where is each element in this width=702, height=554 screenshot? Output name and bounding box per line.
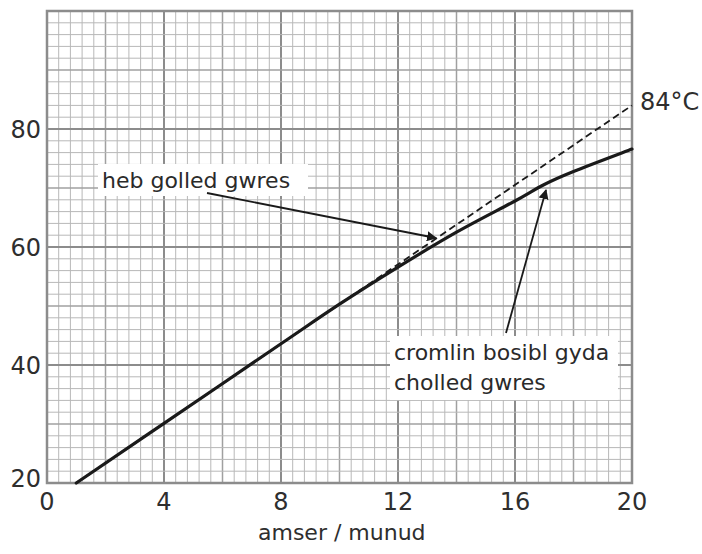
y-tick-label: 60 [10,234,41,262]
x-tick-label: 4 [156,488,171,516]
x-axis-label: amser / munud [258,520,426,545]
heat-loss-curve [76,149,632,483]
annotation-heat-loss-line2: cholled gwres [394,370,546,395]
x-tick-label: 20 [617,488,648,516]
y-tick-label: 40 [10,352,41,380]
x-tick-label: 0 [39,488,54,516]
end-temperature-label: 84°C [640,88,699,116]
annotation-heat-loss-line1: cromlin bosibl gyda [394,340,609,365]
x-tick-label: 8 [273,488,288,516]
y-tick-label: 80 [10,116,41,144]
x-tick-label: 16 [500,488,531,516]
heating-curve-chart: 04812162020406080 heb golled gwres croml… [0,0,702,554]
y-tick-label: 20 [10,465,41,493]
graph-paper-grid [47,11,632,483]
x-tick-label: 12 [383,488,414,516]
annotation-no-heat-loss: heb golled gwres [102,168,290,193]
